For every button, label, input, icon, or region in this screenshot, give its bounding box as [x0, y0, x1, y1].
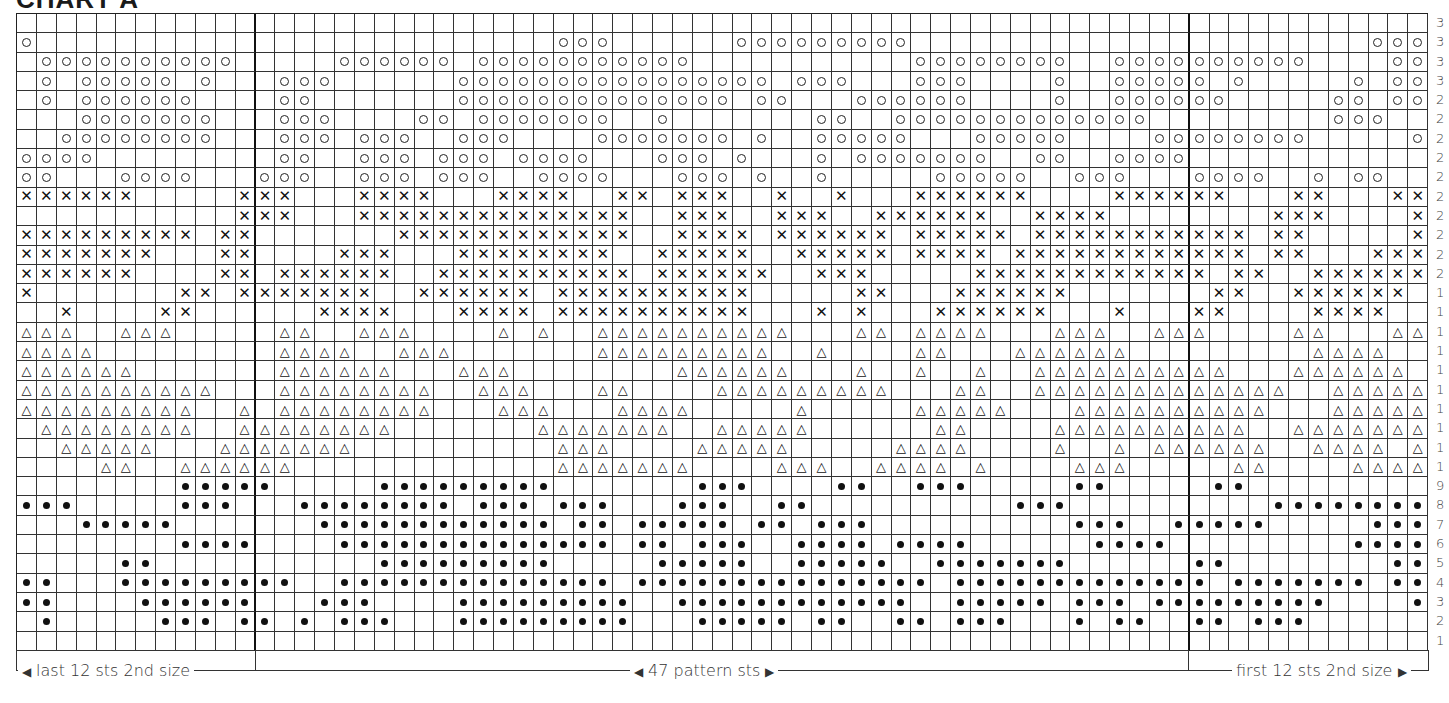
triangle-icon	[951, 419, 971, 438]
open-circle-icon	[474, 72, 494, 91]
filled-dot-icon	[1408, 535, 1428, 554]
filled-dot-icon	[514, 535, 534, 554]
cross-icon	[216, 265, 236, 284]
triangle-icon	[653, 323, 673, 342]
chart-cell	[1070, 496, 1090, 515]
open-circle-icon	[673, 72, 693, 91]
cross-icon	[792, 246, 812, 265]
chart-cell	[275, 496, 295, 515]
chart-cell	[395, 246, 415, 265]
cross-icon	[534, 188, 554, 207]
chart-cell	[892, 381, 912, 400]
chart-cell	[1070, 149, 1090, 168]
chart-cell	[1051, 535, 1071, 554]
triangle-icon	[136, 439, 156, 458]
open-circle-icon	[971, 130, 991, 149]
filled-dot-icon	[1408, 554, 1428, 573]
chart-cell	[1210, 535, 1230, 554]
chart-cell	[872, 342, 892, 361]
chart-cell	[1289, 149, 1309, 168]
chart-cell	[77, 207, 97, 226]
triangle-icon	[57, 439, 77, 458]
chart-cell	[355, 342, 375, 361]
chart-cell	[1170, 14, 1190, 33]
triangle-icon	[37, 342, 57, 361]
chart-cell	[176, 33, 196, 52]
cross-icon	[1170, 226, 1190, 245]
cross-icon	[951, 284, 971, 303]
triangle-icon	[295, 342, 315, 361]
filled-dot-icon	[1150, 574, 1170, 593]
filled-dot-icon	[673, 554, 693, 573]
triangle-icon	[1309, 361, 1329, 380]
triangle-icon	[216, 439, 236, 458]
chart-cell	[57, 458, 77, 477]
cross-icon	[454, 207, 474, 226]
triangle-icon	[1170, 400, 1190, 419]
chart-cell	[434, 612, 454, 631]
chart-cell	[1090, 14, 1110, 33]
chart-cell	[196, 226, 216, 245]
filled-dot-icon	[494, 554, 514, 573]
chart-cell	[355, 632, 375, 651]
cross-icon	[1190, 303, 1210, 322]
cross-icon	[1090, 207, 1110, 226]
filled-dot-icon	[454, 554, 474, 573]
chart-cell	[1309, 477, 1329, 496]
filled-dot-icon	[852, 554, 872, 573]
chart-cell	[872, 516, 892, 535]
cross-icon	[236, 226, 256, 245]
row-number: 7	[1436, 515, 1449, 534]
triangle-icon	[77, 381, 97, 400]
cross-icon	[434, 207, 454, 226]
chart-cell	[1369, 612, 1389, 631]
filled-dot-icon	[852, 593, 872, 612]
cross-icon	[1408, 265, 1428, 284]
chart-cell	[752, 632, 772, 651]
filled-dot-icon	[991, 612, 1011, 631]
open-circle-icon	[832, 110, 852, 129]
cross-icon	[474, 303, 494, 322]
chart-cell	[474, 323, 494, 342]
chart-cell	[931, 496, 951, 515]
open-circle-icon	[1051, 91, 1071, 110]
chart-cell	[1090, 91, 1110, 110]
cross-icon	[395, 226, 415, 245]
chart-cell	[17, 72, 37, 91]
open-circle-icon	[295, 149, 315, 168]
chart-cell	[1110, 323, 1130, 342]
cross-icon	[673, 284, 693, 303]
chart-cell	[1249, 110, 1269, 129]
filled-dot-icon	[951, 554, 971, 573]
open-circle-icon	[534, 168, 554, 187]
triangle-icon	[1210, 439, 1230, 458]
cross-icon	[275, 188, 295, 207]
chart-cell	[454, 632, 474, 651]
open-circle-icon	[1110, 168, 1130, 187]
chart-cell	[971, 516, 991, 535]
triangle-icon	[772, 361, 792, 380]
chart-cell	[17, 458, 37, 477]
chart-cell	[1329, 535, 1349, 554]
open-circle-icon	[17, 149, 37, 168]
filled-dot-icon	[395, 535, 415, 554]
chart-cell	[1329, 168, 1349, 187]
triangle-icon	[613, 458, 633, 477]
chart-cell	[1210, 323, 1230, 342]
chart-cell	[1289, 477, 1309, 496]
cross-icon	[176, 303, 196, 322]
chart-cell	[872, 188, 892, 207]
filled-dot-icon	[713, 612, 733, 631]
chart-cell	[275, 246, 295, 265]
chart-cell	[1110, 33, 1130, 52]
chart-cell	[1309, 458, 1329, 477]
cross-icon	[1210, 246, 1230, 265]
open-circle-icon	[693, 168, 713, 187]
cross-icon	[1090, 246, 1110, 265]
chart-cell	[1130, 168, 1150, 187]
chart-cell	[1110, 477, 1130, 496]
filled-dot-icon	[474, 554, 494, 573]
chart-cell	[335, 323, 355, 342]
triangle-icon	[1031, 381, 1051, 400]
triangle-icon	[514, 400, 534, 419]
